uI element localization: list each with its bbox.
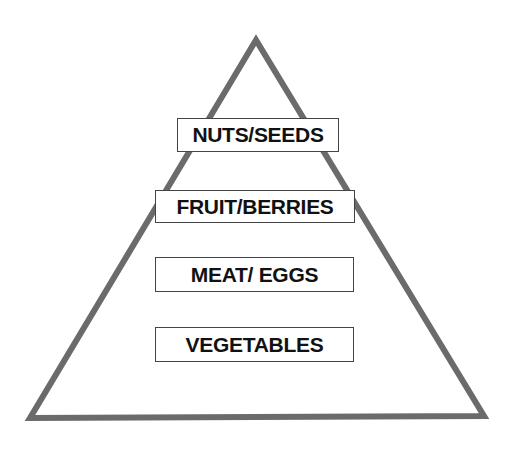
food-pyramid-diagram: NUTS/SEEDS FRUIT/BERRIES MEAT/ EGGS VEGE… [0, 0, 516, 452]
level-vegetables: VEGETABLES [155, 327, 354, 362]
level-fruit-berries: FRUIT/BERRIES [155, 190, 355, 223]
level-label: FRUIT/BERRIES [176, 195, 333, 219]
level-meat-eggs: MEAT/ EGGS [155, 257, 354, 292]
pyramid-triangle [0, 0, 516, 452]
level-label: MEAT/ EGGS [191, 263, 318, 287]
level-nuts-seeds: NUTS/SEEDS [177, 118, 339, 152]
level-label: VEGETABLES [186, 333, 324, 357]
level-label: NUTS/SEEDS [192, 123, 323, 147]
